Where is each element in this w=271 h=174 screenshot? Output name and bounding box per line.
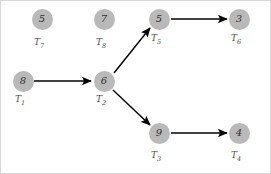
node-t5[interactable]: 5 — [149, 9, 170, 30]
node-label-subscript-t7: 7 — [40, 42, 44, 50]
node-value-t2: 6 — [101, 76, 107, 86]
node-label-t7: T7 — [34, 38, 44, 49]
node-label-t8: T8 — [96, 38, 106, 49]
node-label-subscript-t3: 3 — [157, 155, 161, 163]
node-value-t7: 5 — [39, 14, 45, 24]
node-t8[interactable]: 7 — [94, 9, 115, 30]
node-value-t1: 8 — [20, 76, 26, 86]
node-t2[interactable]: 6 — [94, 71, 115, 92]
node-value-t5: 5 — [156, 14, 162, 24]
node-label-t4: T4 — [231, 151, 241, 162]
node-label-t6: T6 — [231, 34, 241, 45]
node-value-t4: 4 — [236, 128, 242, 138]
node-label-subscript-t2: 2 — [102, 99, 106, 107]
node-t6[interactable]: 3 — [229, 9, 250, 30]
node-label-t3: T3 — [151, 151, 161, 162]
node-label-subscript-t1: 1 — [21, 99, 25, 107]
node-value-t8: 7 — [101, 14, 107, 24]
node-label-subscript-t5: 5 — [157, 38, 161, 46]
node-t7[interactable]: 5 — [32, 9, 53, 30]
node-t3[interactable]: 9 — [149, 123, 170, 144]
node-t4[interactable]: 4 — [229, 123, 250, 144]
node-value-t6: 3 — [236, 14, 242, 24]
node-label-t1: T1 — [15, 95, 25, 106]
node-label-t5: T5 — [151, 34, 161, 45]
edge-t2-to-t3 — [113, 90, 150, 125]
node-label-t2: T2 — [96, 95, 106, 106]
node-label-subscript-t6: 6 — [237, 38, 241, 46]
node-label-subscript-t4: 4 — [237, 155, 241, 163]
node-value-t3: 9 — [156, 128, 162, 138]
node-t1[interactable]: 8 — [13, 71, 34, 92]
diagram-canvas: 8T16T29T34T45T53T65T77T8 — [0, 0, 271, 174]
node-label-subscript-t8: 8 — [102, 42, 106, 50]
edge-t2-to-t5 — [114, 28, 150, 73]
edge-group — [34, 19, 227, 133]
